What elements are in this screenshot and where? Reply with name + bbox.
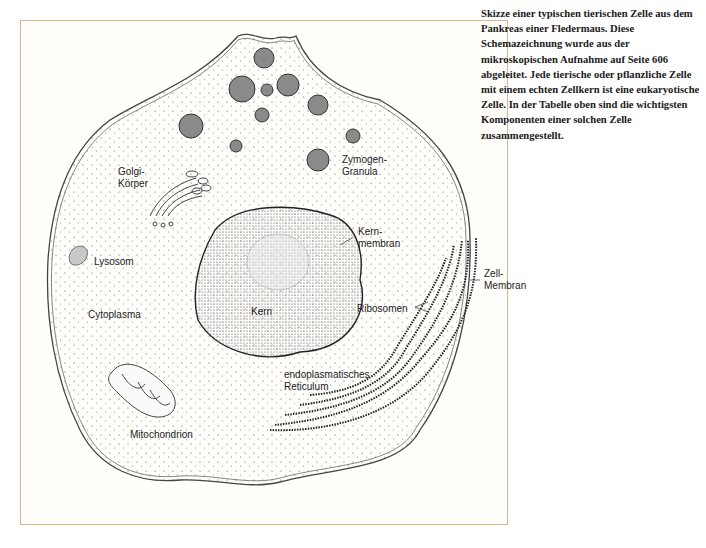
figure-caption: Skizze einer typischen tierischen Zelle … (481, 6, 703, 143)
label-mitochondrion: Mitochondrion (130, 429, 193, 441)
label-cytoplasma: Cytoplasma (88, 309, 141, 321)
label-lysosom: Lysosom (94, 256, 134, 268)
label-kernmembran: Kern- membran (358, 226, 400, 250)
label-golgi: Golgi- Körper (118, 166, 148, 190)
nucleus (195, 207, 362, 356)
label-endoplasmatisches-reticulum: endoplasmatisches Reticulum (284, 369, 370, 393)
label-kern: Kern (251, 306, 272, 318)
label-zymogen-granula: Zymogen- Granula (342, 154, 387, 178)
label-zellmembran: Zell- Membran (484, 268, 526, 292)
label-ribosomen: Ribosomen (357, 303, 408, 315)
